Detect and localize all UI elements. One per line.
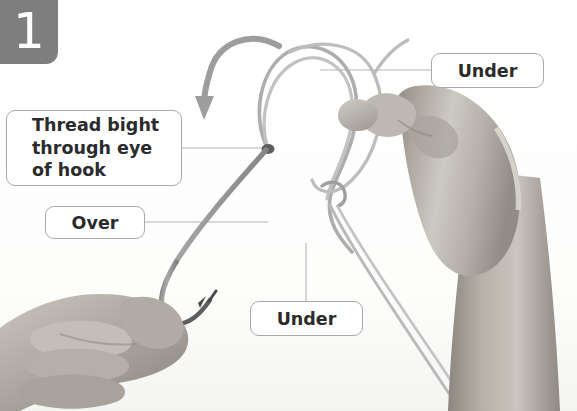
callout-thread-bight: Thread bight through eye of hook bbox=[6, 110, 182, 186]
callout-under-top: Under bbox=[431, 53, 544, 88]
left-finger-ring bbox=[20, 375, 125, 409]
instruction-figure: 1 Thread bight through eye of hook Over … bbox=[0, 0, 577, 411]
callout-over: Over bbox=[45, 206, 145, 239]
step-number-badge: 1 bbox=[0, 0, 58, 64]
callout-under-bottom: Under bbox=[250, 301, 363, 336]
